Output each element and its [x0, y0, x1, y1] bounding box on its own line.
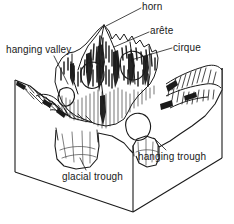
- label-cirque: cirque: [173, 42, 201, 53]
- label-arete: arête: [150, 25, 173, 36]
- label-glacial-trough: glacial trough: [62, 171, 123, 182]
- label-hanging-valley: hanging valley: [6, 44, 71, 55]
- label-horn: horn: [142, 1, 162, 12]
- leader-horn: [106, 8, 141, 26]
- block-diagram-drawing: [0, 0, 234, 224]
- interfluve-front-edge: [98, 133, 133, 153]
- cirque-basin-lower: [126, 113, 151, 140]
- label-hanging-trough: hanging trough: [138, 151, 206, 162]
- glacial-landforms-figure: horn arête cirque hanging valley hanging…: [0, 0, 234, 224]
